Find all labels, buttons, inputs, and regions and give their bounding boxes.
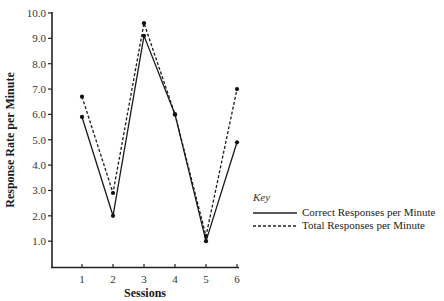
- series-correct-line: [82, 36, 237, 241]
- legend-label-total: Total Responses per Minute: [302, 219, 425, 231]
- axes: [51, 12, 239, 268]
- x-tick-label: 4: [172, 273, 178, 285]
- legend: Key Correct Responses per Minute Total R…: [252, 191, 436, 231]
- legend-label-correct: Correct Responses per Minute: [302, 206, 436, 218]
- line-chart: 1.02.03.04.05.06.07.08.09.010.0 123456 R…: [0, 0, 444, 301]
- series-layer: [80, 21, 239, 243]
- data-point: [235, 87, 239, 91]
- data-point: [80, 95, 84, 99]
- data-point: [111, 191, 115, 195]
- y-tick-label: 4.0: [32, 159, 46, 171]
- y-tick-label: 1.0: [32, 235, 46, 247]
- x-axis-title: Sessions: [124, 286, 166, 300]
- data-point: [235, 140, 239, 144]
- y-tick-label: 6.0: [32, 108, 46, 120]
- data-point: [204, 234, 208, 238]
- data-point: [80, 115, 84, 119]
- y-tick-label: 7.0: [32, 83, 46, 95]
- x-tick-label: 3: [141, 273, 147, 285]
- series-total-line: [82, 23, 237, 236]
- y-tick-label: 9.0: [32, 32, 46, 44]
- x-tick-label: 1: [79, 273, 85, 285]
- data-point: [173, 112, 177, 116]
- data-point: [142, 21, 146, 25]
- y-tick-label: 3.0: [32, 184, 46, 196]
- y-axis-title: Response Rate per Minute: [3, 72, 17, 208]
- y-ticks: 1.02.03.04.05.06.07.08.09.010.0: [27, 7, 52, 247]
- y-tick-label: 2.0: [32, 210, 46, 222]
- y-tick-label: 8.0: [32, 58, 46, 70]
- x-tick-label: 2: [110, 273, 116, 285]
- legend-title: Key: [252, 191, 270, 203]
- data-point: [111, 214, 115, 218]
- y-tick-label: 5.0: [32, 134, 46, 146]
- data-point: [204, 239, 208, 243]
- x-tick-label: 6: [234, 273, 240, 285]
- x-tick-label: 5: [203, 273, 209, 285]
- y-tick-label: 10.0: [27, 7, 47, 19]
